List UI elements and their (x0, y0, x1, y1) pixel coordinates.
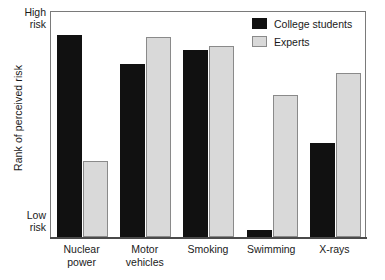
bar-x-rays-experts (336, 73, 361, 237)
y-tick-low-line-2: risk (2, 222, 46, 234)
y-tick-high-line-2: risk (2, 19, 46, 31)
bar-swimming-college-students (247, 230, 272, 237)
legend-label: College students (274, 18, 352, 30)
bar-swimming-experts (273, 95, 298, 237)
x-tick-label: Swimming (240, 243, 303, 256)
bar-motor-vehicles-experts (146, 37, 171, 237)
x-tick-label: Smoking (176, 243, 239, 256)
y-tick-high-line-1: High (2, 7, 46, 19)
legend-item: Experts (252, 35, 362, 48)
chart-legend: College studentsExperts (252, 17, 362, 53)
y-tick-low-line-1: Low (2, 210, 46, 222)
x-tick-label-line: X-rays (303, 243, 366, 256)
x-tick-label-line: Smoking (176, 243, 239, 256)
legend-swatch-experts (252, 36, 267, 47)
bar-x-rays-college-students (310, 143, 335, 238)
bar-smoking-college-students (183, 50, 208, 237)
y-axis-label: Rank of perceived risk (12, 38, 24, 198)
x-tick-label: Nuclearpower (50, 243, 113, 268)
legend-swatch-students (252, 18, 267, 29)
x-tick-label: Motorvehicles (113, 243, 176, 268)
x-tick-label-line: power (50, 256, 113, 269)
bar-group (114, 12, 177, 237)
bar-smoking-experts (209, 46, 234, 237)
y-tick-low-risk: Low risk (2, 210, 46, 233)
bar-group (177, 12, 240, 237)
x-tick-label: X-rays (303, 243, 366, 256)
y-tick-high-risk: High risk (2, 7, 46, 30)
bar-nuclear-power-experts (83, 161, 108, 238)
bar-nuclear-power-college-students (57, 35, 82, 238)
bar-group (51, 12, 114, 237)
x-tick-label-line: vehicles (113, 256, 176, 269)
x-tick-label-line: Motor (113, 243, 176, 256)
x-tick-label-line: Nuclear (50, 243, 113, 256)
bar-motor-vehicles-college-students (120, 64, 145, 237)
x-tick-label-line: Swimming (240, 243, 303, 256)
x-axis-baseline (50, 237, 367, 239)
legend-label: Experts (274, 36, 310, 48)
risk-perception-bar-chart: Rank of perceived risk High risk Low ris… (0, 0, 385, 280)
legend-item: College students (252, 17, 362, 30)
